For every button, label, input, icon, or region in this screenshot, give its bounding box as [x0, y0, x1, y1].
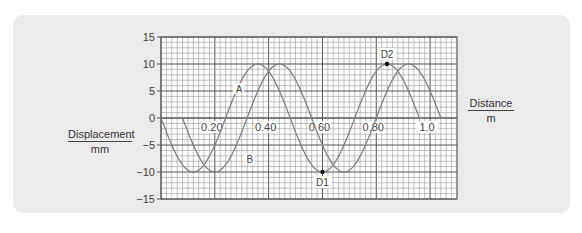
x-tick-label: 0.60 — [309, 121, 330, 133]
y-tick-label: 15 — [143, 31, 155, 43]
x-tick-label: 1.0 — [419, 121, 434, 133]
x-tick-label: 0.40 — [255, 121, 276, 133]
wave-chart: 151050−5−10−150.200.400.600.801.0D1D2AB — [0, 0, 582, 233]
y-tick-label: 0 — [149, 112, 155, 124]
curve-label-b: B — [246, 154, 253, 165]
y-tick-label: 10 — [143, 58, 155, 70]
x-tick-label: 0.20 — [201, 121, 222, 133]
point-label: D2 — [381, 49, 394, 60]
y-tick-label: −15 — [136, 193, 155, 205]
point-label: D1 — [316, 177, 329, 188]
y-tick-label: −10 — [136, 166, 155, 178]
y-tick-label: −5 — [142, 139, 155, 151]
grid — [161, 37, 457, 199]
y-tick-label: 5 — [149, 85, 155, 97]
curve-label-a: A — [236, 84, 243, 95]
point-d1 — [320, 170, 324, 174]
point-d2 — [385, 62, 389, 66]
